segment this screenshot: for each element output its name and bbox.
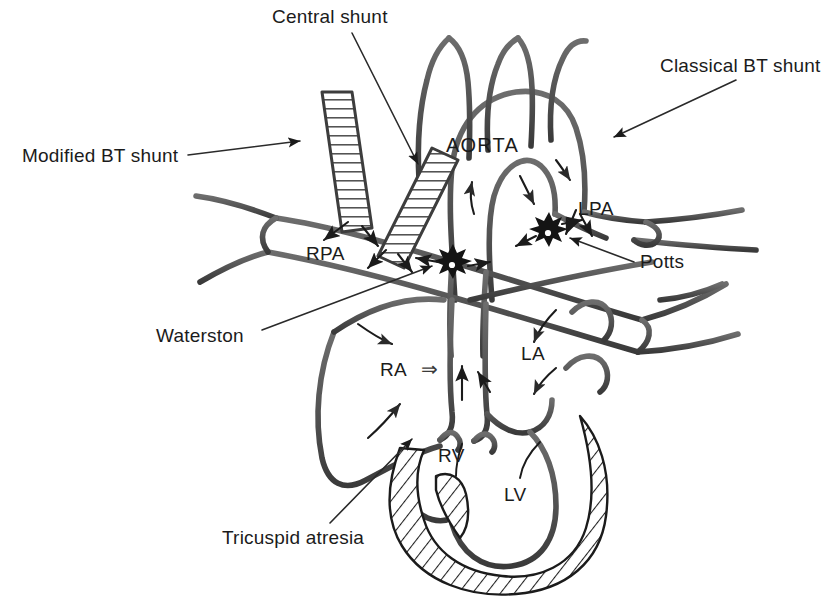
label-tricuspid-atresia: Tricuspid atresia — [222, 527, 364, 549]
label-lv: LV — [504, 484, 527, 506]
septum-flap-tip-right — [474, 434, 495, 452]
label-classical-bt-shunt: Classical BT shunt — [660, 55, 821, 77]
flow-aorta-down — [520, 176, 534, 204]
label-lpa: LPA — [578, 198, 614, 220]
pulmonary-vein-lower — [566, 356, 607, 392]
label-la: LA — [521, 343, 545, 365]
label-potts: Potts — [640, 251, 684, 273]
leader-classical-bt — [614, 80, 736, 137]
leader-waterston — [262, 266, 432, 330]
leader-central-shunt — [352, 33, 418, 164]
flow-lv-in — [520, 442, 540, 478]
flow-waterston-right — [468, 262, 490, 266]
right-atrium-roof — [334, 299, 444, 332]
ra-flow-arrow-icon: ⇒ — [421, 357, 438, 381]
aortic-branch-upper — [646, 210, 742, 222]
label-waterston: Waterston — [156, 325, 244, 347]
lpa-branch-lower — [638, 334, 738, 352]
right-atrium-free-wall — [318, 332, 440, 485]
flow-ra-in-bottom — [368, 404, 400, 438]
label-rv: RV — [438, 445, 465, 467]
rpa-lower-branch — [200, 252, 268, 282]
rpa-upper-branch — [196, 196, 276, 218]
flow-potts-left — [516, 236, 536, 246]
label-ra: RA — [380, 359, 407, 381]
shunt-grafts — [322, 92, 458, 268]
atrial-septum-left-flap — [440, 300, 452, 440]
left-av-valve-leaflet — [487, 400, 552, 433]
lpa-fork-notch — [638, 320, 649, 352]
flow-ra-in-top — [358, 324, 392, 344]
label-rpa: RPA — [306, 243, 345, 265]
rpa-fork-notch — [262, 218, 276, 252]
flow-la-in-lower — [534, 368, 556, 394]
leader-modified-bt — [188, 141, 300, 155]
label-aorta: AORTA — [446, 134, 519, 157]
left-subclavian-limb — [551, 41, 587, 140]
label-central-shunt: Central shunt — [272, 6, 388, 28]
flow-aorta-up — [471, 182, 474, 214]
flow-desc-aorta — [556, 160, 570, 180]
label-modified-bt-shunt: Modified BT shunt — [22, 145, 178, 167]
heart-shunt-illustration — [0, 0, 821, 600]
modified-bt-shunt-graft — [322, 92, 372, 232]
figure-canvas: Central shunt Classical BT shunt Modifie… — [0, 0, 821, 600]
vessel-network — [196, 38, 756, 567]
leader-potts — [570, 238, 634, 262]
